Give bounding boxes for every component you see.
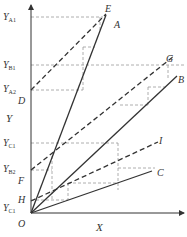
y-axis-label: Y: [6, 112, 14, 124]
line-OB: [31, 76, 177, 213]
line-DE: [31, 14, 106, 90]
line-FG: [31, 56, 174, 170]
label-F: F: [17, 175, 25, 186]
label-D: D: [17, 95, 26, 106]
label-YB1: YB1: [3, 59, 16, 71]
diagram-canvas: YA1 YB1 YA2 YC1 YB2 YC1 D F H Y X O E A …: [0, 0, 187, 237]
label-G: G: [166, 53, 173, 64]
label-C: C: [157, 167, 164, 178]
line-HI: [31, 142, 158, 201]
label-H: H: [17, 194, 26, 205]
label-YC1-lower: YC1: [3, 202, 16, 214]
x-axis-label: X: [95, 221, 104, 233]
dashed-main-lines: [31, 14, 174, 201]
label-I: I: [158, 135, 163, 146]
label-YB2: YB2: [3, 163, 16, 175]
label-E: E: [104, 3, 111, 14]
label-YA2: YA2: [3, 83, 16, 95]
label-YA1: YA1: [3, 11, 16, 23]
label-B: B: [178, 74, 184, 85]
label-YC1-upper: YC1: [3, 137, 16, 149]
label-A: A: [113, 19, 121, 30]
origin-label: O: [18, 218, 25, 229]
